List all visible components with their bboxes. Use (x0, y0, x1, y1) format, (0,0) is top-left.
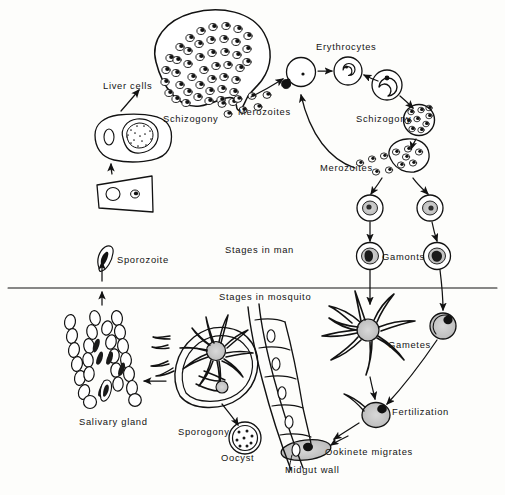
label-gametes: Gametes (388, 339, 431, 350)
label-ookinete-migrates: Ookinete migrates (325, 446, 413, 457)
infected-liver-cell (95, 114, 172, 162)
label-sporozoite: Sporozoite (117, 254, 169, 265)
sporozoite-illustration (98, 246, 113, 272)
label-liver-cells: Liver cells (103, 80, 152, 91)
label-merozoites-liver: Merozoites (238, 106, 291, 117)
diagram-canvas: Liver cells Schizogony Merozoites Erythr… (0, 0, 505, 495)
sporogony-oocyst (151, 315, 258, 408)
diagram-labels: Liver cells Schizogony Merozoites Erythr… (79, 41, 449, 475)
label-midgut-wall: Midgut wall (285, 464, 340, 475)
malaria-life-cycle-diagram: Liver cells Schizogony Merozoites Erythr… (0, 0, 505, 495)
label-stages-in-man: Stages in man (225, 244, 294, 255)
erythrocyte-2-ring (334, 57, 362, 85)
zygote-fertilization (344, 394, 390, 428)
liver-schizont-illustration (155, 10, 271, 118)
erythrocyte-1 (287, 58, 316, 87)
label-stages-in-mosquito: Stages in mosquito (219, 291, 311, 302)
label-salivary-gland: Salivary gland (79, 416, 148, 427)
salivary-gland-illustration (63, 310, 141, 409)
label-fertilization: Fertilization (392, 406, 449, 417)
label-sporogony: Sporogony (178, 426, 230, 437)
label-merozoites-blood: Merozoites (320, 162, 373, 173)
label-gamonts: Gamonts (382, 251, 425, 262)
macrogamete-cell (430, 313, 456, 339)
label-erythrocytes: Erythrocytes (316, 41, 377, 52)
healthy-liver-cell (97, 176, 153, 212)
gamont-precursor-cells (357, 195, 443, 221)
label-schizogony-liver: Schizogony (163, 113, 218, 124)
label-oocyst: Oocyst (221, 452, 254, 463)
exflagellation-gametes (322, 291, 415, 375)
label-schizogony-blood: Schizogony (356, 113, 411, 124)
oocyst-cell (229, 422, 261, 454)
released-sporozoites-left (151, 336, 174, 376)
